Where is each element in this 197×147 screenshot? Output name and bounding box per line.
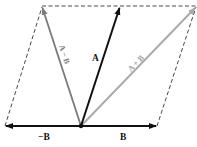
- vector-a: [81, 8, 120, 126]
- label-neg-b: −B: [38, 132, 50, 142]
- origin-dot: [79, 124, 83, 128]
- dashed-right-edge: [157, 7, 196, 126]
- vector-a-minus-b: [43, 8, 82, 126]
- vector-diagram: −B B A A − B A + B: [0, 0, 197, 147]
- label-a-plus-b: A + B: [126, 53, 146, 74]
- vectors: [6, 8, 195, 128]
- dashed-left-edge: [5, 7, 42, 126]
- label-a: A: [92, 53, 99, 63]
- label-b: B: [120, 132, 127, 142]
